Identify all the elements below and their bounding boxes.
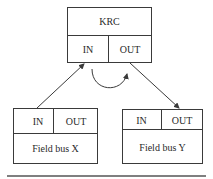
field-bus-y-out-label: OUT — [172, 115, 193, 126]
field-bus-x-out-label: OUT — [66, 116, 87, 127]
field-bus-x-box: IN OUT Field bus X — [14, 109, 98, 164]
arrow-x-to-krc-in — [37, 64, 84, 108]
field-bus-y-in-label: IN — [136, 115, 147, 126]
krc-title: KRC — [99, 16, 120, 27]
curved-arrow-icon — [92, 69, 127, 88]
krc-out-label: OUT — [120, 44, 141, 55]
arrow-krc-out-to-y — [130, 63, 179, 108]
field-bus-x-in-label: IN — [33, 116, 44, 127]
diagram-canvas: KRC IN OUT IN OUT Field bus X IN OUT Fie… — [0, 0, 213, 179]
field-bus-x-title: Field bus X — [32, 143, 79, 154]
field-bus-y-box: IN OUT Field bus Y — [123, 110, 203, 164]
krc-in-label: IN — [83, 44, 94, 55]
field-bus-y-title: Field bus Y — [139, 142, 185, 153]
krc-box: KRC IN OUT — [68, 8, 152, 63]
